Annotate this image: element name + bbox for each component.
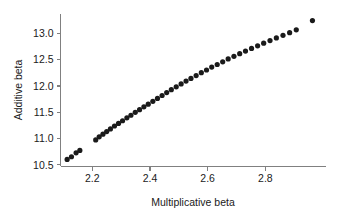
data-point — [194, 73, 199, 78]
data-point — [77, 148, 82, 153]
data-point — [287, 30, 292, 35]
x-axis-ticks: 2.22.42.62.8 — [85, 167, 273, 184]
data-point — [128, 113, 133, 118]
data-point — [261, 41, 266, 46]
data-point — [150, 99, 155, 104]
data-point — [174, 84, 179, 89]
data-point — [120, 118, 125, 123]
x-axis-title: Multiplicative beta — [151, 196, 235, 208]
data-point — [69, 154, 74, 159]
data-point — [280, 33, 285, 38]
y-axis-title: Additive beta — [12, 59, 24, 120]
data-point — [231, 54, 236, 59]
plot-canvas: 10.511.011.512.012.513.0 2.22.42.62.8 Mu… — [0, 0, 337, 215]
y-tick-label: 13.0 — [33, 27, 54, 39]
data-point — [155, 96, 160, 101]
y-axis-ticks: 10.511.011.512.012.513.0 — [33, 27, 60, 170]
data-point — [183, 78, 188, 83]
data-point — [164, 90, 169, 95]
data-point — [215, 62, 220, 67]
y-tick-label: 12.0 — [33, 80, 54, 92]
x-tick-label: 2.6 — [200, 172, 215, 184]
y-tick-label: 11.5 — [34, 106, 54, 118]
data-point — [199, 70, 204, 75]
x-tick-label: 2.4 — [143, 172, 158, 184]
y-tick-label: 12.5 — [33, 53, 54, 65]
data-point — [274, 35, 279, 40]
data-point — [226, 56, 231, 61]
data-point — [220, 59, 225, 64]
data-point — [159, 93, 164, 98]
data-point — [188, 76, 193, 81]
scatter-chart-figure: 10.511.011.512.012.513.0 2.22.42.62.8 Mu… — [0, 0, 337, 215]
data-point — [133, 110, 138, 115]
data-point — [243, 48, 248, 53]
data-point — [65, 157, 70, 162]
y-tick-label: 10.5 — [33, 159, 54, 171]
data-point — [294, 27, 299, 32]
data-point — [209, 65, 214, 70]
x-tick-label: 2.2 — [85, 172, 100, 184]
data-point — [141, 104, 146, 109]
data-point — [310, 18, 315, 23]
data-point — [237, 51, 242, 56]
data-point — [137, 107, 142, 112]
data-point — [249, 46, 254, 51]
y-tick-label: 11.0 — [34, 132, 54, 144]
data-point — [255, 43, 260, 48]
data-point — [169, 87, 174, 92]
data-point — [179, 81, 184, 86]
data-points-layer — [65, 18, 315, 162]
data-point — [267, 38, 272, 43]
data-point — [204, 67, 209, 72]
x-tick-label: 2.8 — [258, 172, 273, 184]
data-point — [146, 102, 151, 107]
